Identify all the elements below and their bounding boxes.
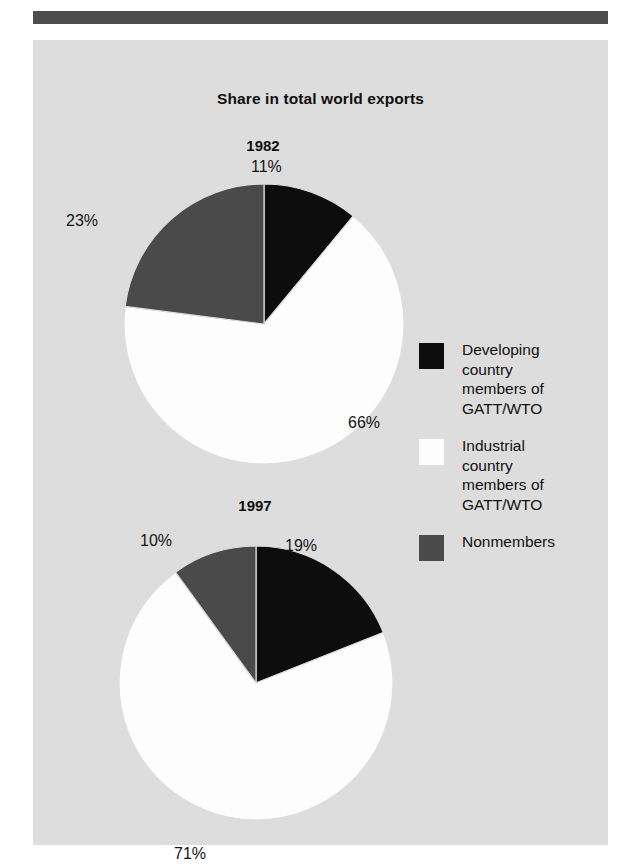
- legend-label-nonmembers: Nonmembers: [462, 532, 609, 552]
- pie-1982-value-industrial: 66%: [348, 414, 380, 432]
- chart-title: Share in total world exports: [33, 90, 608, 108]
- chart-panel: Share in total world exports 1982 11% 66…: [33, 40, 608, 845]
- header-rule: [33, 11, 608, 24]
- pie-1982-value-developing: 11%: [251, 158, 282, 176]
- developing-members-swatch: [419, 343, 444, 369]
- pie-1982-year-label: 1982: [198, 137, 328, 154]
- legend-label-developing: Developing country members of GATT/WTO: [462, 340, 609, 418]
- figure-root: Share in total world exports 1982 11% 66…: [0, 0, 635, 867]
- legend-item-industrial: Industrial country members of GATT/WTO: [419, 436, 609, 514]
- legend-label-industrial: Industrial country members of GATT/WTO: [462, 436, 609, 514]
- pie-slice: [125, 184, 264, 324]
- pie-1997-slices: [119, 546, 393, 820]
- pie-1982-value-nonmembers: 23%: [66, 212, 98, 230]
- pie-1997-value-developing: 19%: [285, 537, 317, 555]
- pie-1997-chart: [86, 545, 426, 823]
- pie-1997-value-industrial: 71%: [174, 845, 206, 863]
- pie-1982-chart: [91, 183, 437, 467]
- legend-item-nonmembers: Nonmembers: [419, 532, 609, 556]
- industrial-members-swatch: [419, 439, 444, 465]
- legend-item-developing: Developing country members of GATT/WTO: [419, 340, 609, 418]
- nonmembers-swatch: [419, 535, 444, 561]
- pie-1997-value-nonmembers: 10%: [140, 532, 172, 550]
- chart-legend: Developing country members of GATT/WTO I…: [419, 340, 609, 574]
- pie-1997-year-label: 1997: [190, 497, 320, 514]
